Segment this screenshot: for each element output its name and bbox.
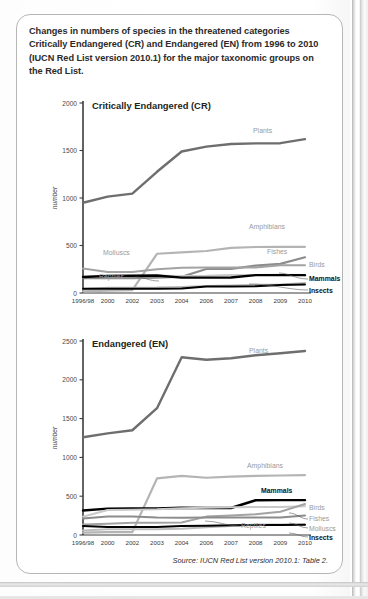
x-axis-tick-label: 2006 [199,297,213,304]
series-line-plants [83,351,305,437]
series-label-amphibians: Amphibians [247,462,284,470]
series-label-amphibians: Amphibians [249,223,286,231]
series-label-birds: Birds [309,261,325,268]
figure-card: Changes in numbers of species in the thr… [16,14,343,574]
series-line-molluscs [83,265,305,272]
series-label-molluscs: Molluscs [103,249,130,256]
figure-source: Source: IUCN Red List version 2010.1: Ta… [173,556,328,565]
series-label-plants: Plants [253,127,273,134]
x-axis-tick-label: 2009 [273,297,287,304]
chart-title: Critically Endangered (CR) [92,100,211,111]
x-axis-tick-label: 2003 [150,297,164,304]
y-axis-tick-label: 2000 [62,376,77,383]
x-axis-tick-label: 2003 [150,539,164,546]
x-axis-tick-label: 2004 [175,297,189,304]
y-axis-tick-label: 500 [66,493,77,500]
series-label-plants: Plants [249,347,269,354]
y-axis-tick-label: 500 [66,242,77,249]
x-axis-tick-label: 2010 [298,297,312,304]
y-axis-tick-label: 2500 [62,338,77,345]
x-axis-tick-label: 2000 [101,539,115,546]
x-axis-tick-label: 2002 [125,297,139,304]
series-label-mammals: Mammals [309,275,341,282]
y-axis-tick-label: 1000 [62,454,77,461]
y-axis-tick-label: 2000 [62,100,77,107]
x-axis-tick-label: 1996/98 [72,297,95,304]
series-line-molluscs [83,515,305,518]
chart-endangered: 050010001500200025001996/982000200220032… [17,325,344,565]
y-axis-tick-label: 1500 [62,415,77,422]
x-axis-tick-label: 1996/98 [72,539,95,546]
y-axis-title: number [51,186,58,209]
chart-title: Endangered (EN) [92,338,168,349]
chart-endangered-svg: 050010001500200025001996/982000200220032… [17,325,344,565]
y-axis-title: number [51,426,58,449]
x-axis-tick-label: 2006 [199,539,213,546]
chart-critically-endangered-svg: 05001000150020001996/9820002002200320042… [17,87,344,322]
page-binding-edge [350,0,368,599]
series-label-birds: Birds [309,504,325,511]
series-line-insects [83,525,305,527]
series-label-reptiles: Reptiles [241,522,266,530]
series-label-insects: Insects [309,534,333,541]
x-axis-tick-label: 2008 [249,539,263,546]
y-axis-tick-label: 1000 [62,195,77,202]
x-axis-tick-label: 2009 [273,539,287,546]
y-axis-tick-label: 1500 [62,147,77,154]
x-axis-tick-label: 2008 [249,297,263,304]
series-line-plants [83,139,305,203]
x-axis-tick-label: 2004 [175,539,189,546]
x-axis-tick-label: 2002 [125,539,139,546]
series-label-mammals: Mammals [261,487,293,494]
x-axis-tick-label: 2000 [101,297,115,304]
series-label-molluscs: Molluscs [309,525,336,532]
page-bottom-rule [0,582,368,587]
series-label-reptiles: Reptiles [99,273,124,281]
series-label-fishes: Fishes [309,515,330,522]
x-axis-tick-label: 2007 [224,297,238,304]
series-label-fishes: Fishes [267,248,288,255]
x-axis-tick-label: 2007 [224,539,238,546]
chart-critically-endangered: 05001000150020001996/9820002002200320042… [17,87,344,322]
series-label-insects: Insects [309,287,333,294]
figure-caption: Changes in numbers of species in the thr… [29,25,329,79]
